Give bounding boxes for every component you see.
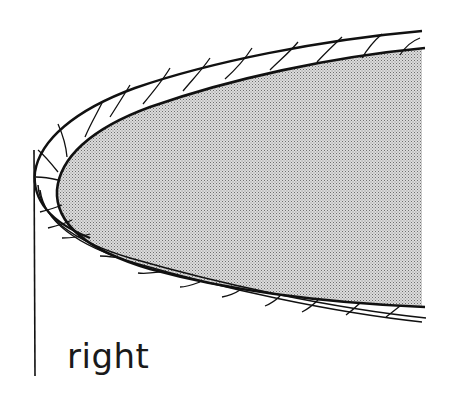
- vertical-line: [34, 150, 35, 376]
- shaded-core: [58, 49, 422, 306]
- diagram-label: right: [67, 336, 149, 376]
